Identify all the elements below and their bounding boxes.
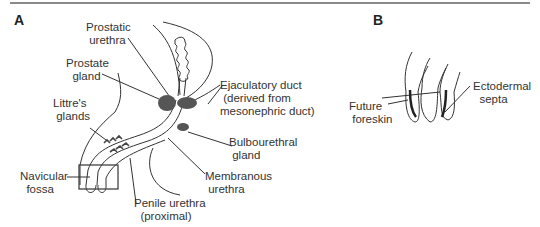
- leader-bulbourethral: [188, 132, 232, 146]
- prostate-lobe-left: [158, 95, 176, 111]
- label-ectodermal-septa: Ectodermal septa: [473, 80, 531, 106]
- label-prostatic-urethra: Prostatic urethra: [86, 21, 131, 47]
- urethra-outer: [86, 100, 176, 185]
- label-navicular-fossa: Navicular fossa: [20, 170, 68, 196]
- panel-a-letter: A: [14, 12, 24, 28]
- panel-b-letter: B: [373, 12, 383, 28]
- label-prostate-gland: Prostate gland: [66, 57, 109, 83]
- bulbourethral-gland-shape: [177, 123, 189, 131]
- penile-shaft-upper: [80, 73, 121, 185]
- leader-prostate-gland: [102, 74, 168, 103]
- label-penile-urethra: Penile urethra (proximal): [134, 197, 206, 223]
- leader-littre: [90, 128, 106, 140]
- label-future-foreskin: Future foreskin: [349, 100, 392, 126]
- penile-shaft-lower: [106, 140, 165, 185]
- leader-membranous: [168, 138, 205, 174]
- label-ejaculatory-duct: Ejaculatory duct (derived from mesonephr…: [220, 79, 315, 118]
- seminal-vesicle: [175, 37, 189, 81]
- perineum-curve: [150, 148, 180, 195]
- leader-septa-2: [445, 86, 470, 112]
- ectodermal-septum-left: [410, 90, 416, 117]
- label-membranous-urethra: Membranous urethra: [205, 170, 272, 196]
- littre-glands-lower: [110, 143, 129, 152]
- label-bulbourethral-gland: Bulbourethral gland: [229, 136, 297, 162]
- prostate-lobe-right: [177, 97, 197, 109]
- label-littres-glands: Littre's glands: [53, 97, 90, 123]
- bladder-wall-left: [153, 25, 180, 95]
- foreskin-left: [405, 52, 428, 122]
- ectodermal-septum-right: [442, 90, 446, 117]
- leader-prostatic-urethra: [128, 38, 172, 100]
